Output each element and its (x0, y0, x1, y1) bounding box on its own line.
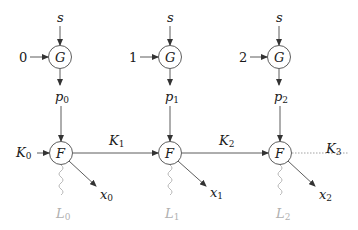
column-0: s 0 G p0 K0 F K1 x0 L0 (15, 10, 158, 222)
k-out-label-1: K2 (218, 133, 234, 149)
x-out-arrow-0 (69, 161, 96, 186)
x-out-arrow-1 (178, 161, 206, 186)
f-node-label-0: F (55, 146, 66, 161)
l-label-0: L0 (55, 206, 71, 222)
p-label-1: p1 (165, 89, 179, 105)
f-node-label-1: F (164, 146, 175, 161)
column-2: s 2 G p2 F K3 x2 L2 (239, 10, 348, 222)
input-value-2: 2 (239, 50, 247, 65)
f-node-label-2: F (274, 146, 285, 161)
s-label-1: s (167, 10, 174, 25)
g-node-label-1: G (165, 50, 175, 65)
l-label-2: L2 (275, 206, 290, 222)
s-label-2: s (276, 10, 283, 25)
input-value-1: 1 (129, 50, 137, 65)
x-label-2: x2 (319, 187, 332, 203)
l-wavy-line-2 (278, 165, 282, 195)
k-in-label-0: K0 (15, 145, 32, 161)
k-out-label-2: K3 (325, 141, 342, 157)
x-out-arrow-2 (288, 161, 315, 186)
g-node-label-0: G (55, 50, 65, 65)
x-label-0: x0 (100, 187, 113, 203)
x-label-1: x1 (210, 185, 223, 201)
input-value-0: 0 (19, 50, 27, 65)
l-wavy-line-1 (168, 165, 172, 195)
l-wavy-line-0 (59, 165, 63, 195)
g-node-label-2: G (274, 50, 284, 65)
column-1: s 1 G p1 F K2 x1 L1 (129, 10, 268, 222)
s-label-0: s (57, 10, 64, 25)
p-label-0: p0 (55, 89, 69, 105)
l-label-1: L1 (164, 206, 179, 222)
p-label-2: p2 (274, 89, 288, 105)
diagram: s 0 G p0 K0 F K1 x0 L0 s 1 G p1 F K2 x1 (0, 0, 358, 230)
k-out-label-0: K1 (108, 133, 124, 149)
